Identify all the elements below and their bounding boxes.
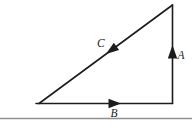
vector-c-label: C xyxy=(97,37,105,49)
vector-c-arrowhead-icon xyxy=(106,43,119,54)
vector-triangle-diagram: C A B xyxy=(0,0,192,130)
vector-b-label: B xyxy=(111,107,118,119)
vector-a-label: A xyxy=(177,49,186,61)
vector-a-arrowhead-icon xyxy=(168,45,177,59)
triangle-side-hypotenuse xyxy=(39,5,173,104)
vector-triangle-figure: C A B xyxy=(0,0,192,130)
